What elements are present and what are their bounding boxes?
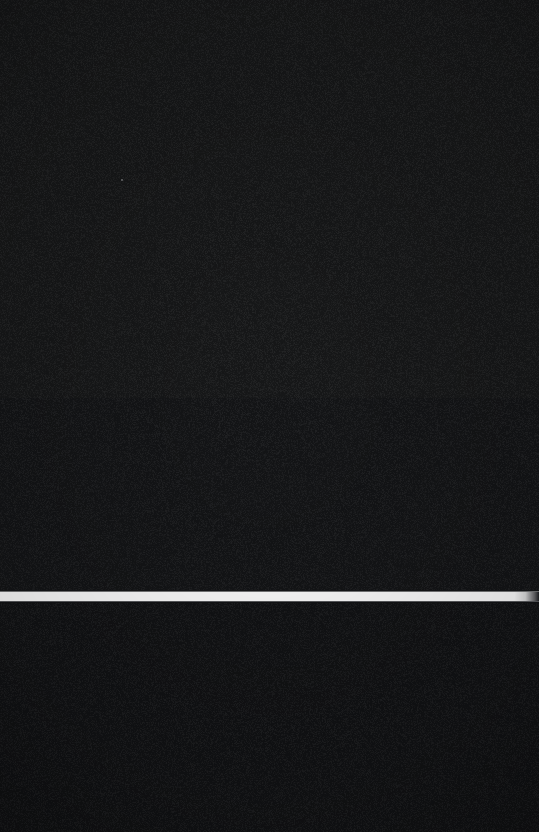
mid-dark-area xyxy=(0,398,539,592)
white-horizontal-band xyxy=(0,592,539,601)
faint-pixel-speck xyxy=(121,179,123,181)
lower-dark-area xyxy=(0,602,539,832)
screen-capture xyxy=(0,0,539,832)
upper-dark-area xyxy=(0,0,539,398)
